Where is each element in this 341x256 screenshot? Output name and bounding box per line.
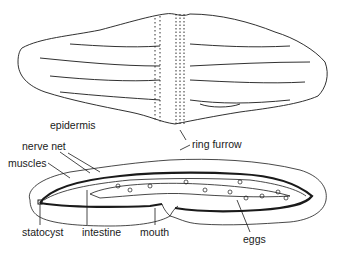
- cross-section-drawing: [29, 159, 326, 226]
- label-intestine: intestine: [82, 227, 121, 238]
- label-epidermis: epidermis: [50, 120, 96, 131]
- label-nerve-net: nerve net: [22, 141, 66, 152]
- label-ring-furrow: ring furrow: [192, 139, 242, 150]
- upper-body-drawing: [18, 14, 327, 126]
- label-muscles: muscles: [8, 158, 47, 169]
- label-eggs: eggs: [243, 234, 266, 245]
- label-statocyst: statocyst: [22, 227, 63, 238]
- label-mouth: mouth: [140, 227, 169, 238]
